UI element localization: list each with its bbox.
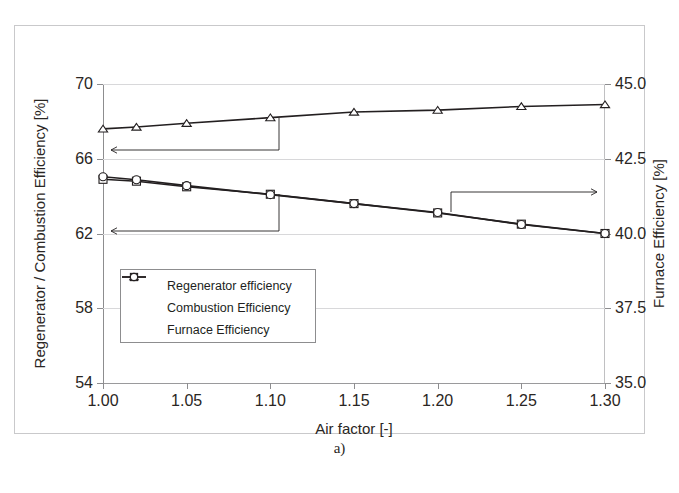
legend-item: Combustion Efficiency [139,297,315,319]
chart-legend: Regenerator efficiencyCombustion Efficie… [120,269,316,343]
x-tick-label: 1.15 [338,392,369,410]
legend-item-label: Combustion Efficiency [167,301,290,315]
secondary-y-tick-label: 35.0 [615,374,646,392]
secondary-y-tick [605,308,611,309]
x-tick-label: 1.10 [255,392,286,410]
primary-y-tick-label: 54 [75,374,93,392]
x-tick-label: 1.20 [422,392,453,410]
primary-y-tick-label: 62 [75,225,93,243]
primary-y-tick-label: 70 [75,75,93,93]
figure-caption: a) [0,440,679,457]
legend-item: Regenerator efficiency [139,275,315,297]
primary-y-axis-title-text: Regenerator / Combustion Efficiency [%] [32,99,49,369]
x-axis-title: Air factor [-] [103,420,605,437]
secondary-y-axis-title-text: Furnace Efficiency [%] [650,159,667,308]
figure-frame: Regenerator / Combustion Efficiency [%] … [14,25,645,434]
legend-marker-circle-icon [139,323,165,337]
primary-y-tick-label: 58 [75,299,93,317]
secondary-y-tick-label: 45.0 [615,75,646,93]
secondary-y-tick-label: 40.0 [615,225,646,243]
x-tick [438,383,439,389]
x-tick [187,383,188,389]
secondary-y-tick-label: 42.5 [615,150,646,168]
primary-y-tick-label: 66 [75,150,93,168]
x-tick-label: 1.25 [506,392,537,410]
page-bleed-text [28,0,268,10]
x-tick [521,383,522,389]
x-tick [354,383,355,389]
secondary-y-tick-label: 37.5 [615,299,646,317]
annotation-pointer [451,192,597,212]
secondary-y-axis-title: Furnace Efficiency [%] [647,84,669,383]
x-tick-label: 1.30 [589,392,620,410]
x-tick [605,383,606,389]
legend-marker-square-icon [139,301,165,315]
x-tick [103,383,104,389]
annotation-pointer [111,194,279,231]
legend-item-label: Regenerator efficiency [167,279,292,293]
x-tick-label: 1.00 [87,392,118,410]
data-point-marker-circle [130,273,137,280]
x-tick-label: 1.05 [171,392,202,410]
x-tick [270,383,271,389]
secondary-y-tick [605,159,611,160]
secondary-y-tick [605,84,611,85]
annotation-pointer [111,118,279,150]
legend-item: Furnace Efficiency [139,319,315,341]
primary-y-axis-title: Regenerator / Combustion Efficiency [%] [29,84,51,383]
legend-item-label: Furnace Efficiency [167,323,270,337]
